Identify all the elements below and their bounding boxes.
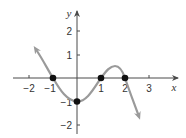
x-tick-label-1: 1 [98, 83, 104, 94]
x-tick-label-3: 3 [146, 83, 152, 94]
point-1-0 [98, 75, 105, 82]
x-axis-label: x [171, 81, 177, 93]
function-graph: −2 −1 1 2 3 x 2 1 −1 −2 y [0, 0, 186, 138]
point-neg1-0 [50, 75, 57, 82]
point-2-0 [122, 75, 129, 82]
y-axis-label: y [66, 7, 72, 19]
point-0-neg1 [74, 98, 81, 105]
y-tick-label-1: 1 [66, 50, 72, 61]
x-tick-label-neg1: −1 [44, 83, 56, 94]
y-tick-label-neg2: −2 [61, 120, 73, 131]
x-tick-label-neg2: −2 [23, 83, 35, 94]
y-tick-label-2: 2 [66, 26, 72, 37]
